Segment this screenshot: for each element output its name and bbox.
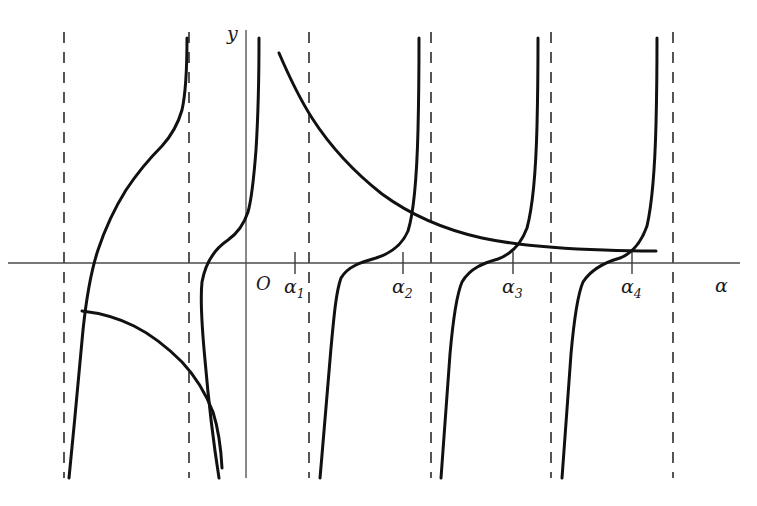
origin-label: O xyxy=(256,273,271,294)
tan-branch-3 xyxy=(320,38,419,478)
tan-branch-2 xyxy=(201,38,259,478)
tan-curve-group xyxy=(69,38,657,478)
x-axis-label: α xyxy=(715,274,728,296)
root-label-alpha-1-sub: 1 xyxy=(297,286,305,301)
hyperbola-left-branch xyxy=(82,311,222,468)
root-label-alpha-3-sub: 3 xyxy=(515,286,523,301)
axis-group xyxy=(8,30,740,478)
tan-branch-5 xyxy=(562,38,657,478)
root-label-alpha-3: α3 xyxy=(502,275,523,301)
tan-branch-1 xyxy=(69,38,187,478)
root-label-alpha-2-sub: 2 xyxy=(404,286,413,301)
plot-canvas: y α O α1 α2 α3 α4 xyxy=(0,0,757,506)
root-label-alpha-4-base: α xyxy=(621,275,634,297)
root-label-alpha-4: α4 xyxy=(621,275,642,301)
root-label-alpha-3-base: α xyxy=(502,275,515,297)
y-axis-label: y xyxy=(226,22,238,44)
asymptote-group xyxy=(64,32,673,478)
root-label-alpha-4-sub: 4 xyxy=(633,286,642,301)
root-label-alpha-1: α1 xyxy=(284,275,305,301)
hyperbola-right-branch xyxy=(279,53,656,251)
tan-branch-4 xyxy=(441,38,538,478)
root-label-alpha-2: α2 xyxy=(392,275,413,301)
label-group: y α O α1 α2 α3 α4 xyxy=(226,22,728,301)
root-label-alpha-2-base: α xyxy=(392,275,405,297)
root-label-alpha-1-base: α xyxy=(284,275,297,297)
figure-root: y α O α1 α2 α3 α4 xyxy=(0,0,757,506)
